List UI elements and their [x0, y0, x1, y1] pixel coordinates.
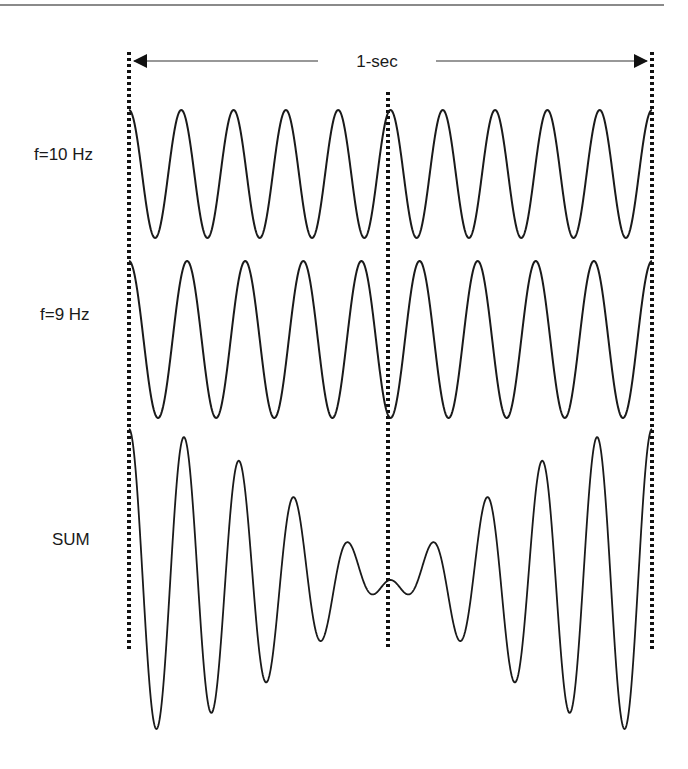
waveform-sum: [129, 429, 652, 729]
waveform-9hz: [129, 261, 652, 418]
row-label-sum: SUM: [52, 530, 90, 550]
span-label: 1-sec: [350, 52, 404, 72]
beat-frequency-figure: [0, 0, 688, 769]
row-label-9hz: f=9 Hz: [40, 305, 90, 325]
row-label-10hz: f=10 Hz: [34, 145, 93, 165]
waveform-10hz: [129, 110, 652, 238]
